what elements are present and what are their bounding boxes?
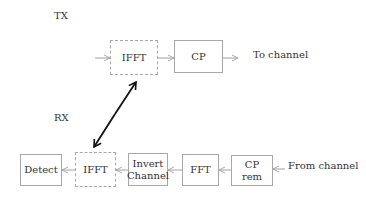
diagram-arrows (0, 0, 366, 205)
ifft-link-double-arrow (94, 82, 136, 147)
